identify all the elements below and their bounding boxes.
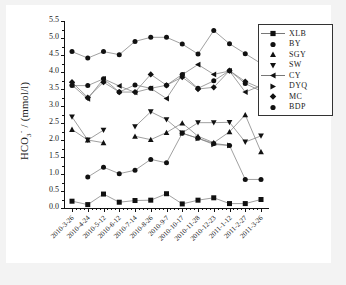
y-tick-label: 3.5 — [49, 83, 59, 92]
data-point — [101, 76, 106, 81]
data-point — [180, 201, 185, 206]
x-tick-mark — [206, 208, 207, 210]
figure-canvas: HCO3- / (mmol/l) 0.00.51.01.52.02.53.03.… — [0, 0, 346, 285]
data-point — [69, 114, 75, 119]
legend-glyph — [268, 103, 278, 112]
x-tick-mark — [115, 208, 116, 210]
series-CY — [69, 62, 263, 102]
data-point — [227, 201, 232, 206]
data-point — [243, 177, 248, 182]
legend-glyph — [268, 82, 278, 91]
x-tick-mark — [210, 208, 211, 210]
x-tick-mark — [178, 208, 179, 210]
y-tick-0.0: 0.0 — [63, 208, 64, 209]
x-tick-mark — [84, 208, 85, 210]
legend-item-sw[interactable]: SW — [261, 60, 329, 71]
data-point — [227, 68, 232, 73]
legend-label: XLB — [285, 29, 306, 38]
data-point — [133, 39, 138, 44]
data-point — [243, 81, 248, 86]
data-point — [133, 82, 138, 87]
series-XLB — [70, 191, 264, 207]
x-tick-mark — [92, 208, 93, 210]
data-point — [242, 112, 248, 117]
legend-item-cy[interactable]: CY — [261, 70, 329, 81]
legend-glyph — [268, 92, 278, 101]
data-point — [132, 133, 138, 138]
data-point — [180, 42, 185, 47]
x-tick-mark — [127, 208, 128, 210]
data-point — [259, 197, 264, 202]
y-tick-label: 4.0 — [49, 66, 59, 75]
data-point — [101, 49, 106, 54]
data-point — [85, 175, 90, 180]
data-point — [101, 192, 106, 197]
data-point — [117, 171, 122, 176]
x-tick-mark — [135, 208, 136, 212]
x-tick-mark — [226, 208, 227, 210]
legend-box: XLBBYSGYSWCYDYQMCBDP — [258, 24, 333, 116]
data-point — [133, 168, 138, 173]
legend-item-sgy[interactable]: SGY — [261, 49, 329, 60]
x-tick-mark — [72, 208, 73, 212]
legend-item-xlb[interactable]: XLB — [261, 28, 329, 39]
x-tick-mark — [182, 208, 183, 212]
data-point — [85, 56, 90, 61]
x-tick-mark — [253, 208, 254, 210]
y-tick-label: 3.0 — [49, 100, 59, 109]
x-tick-mark — [104, 208, 105, 212]
data-point — [242, 140, 248, 145]
data-point — [117, 200, 122, 205]
x-tick-mark — [233, 208, 234, 210]
legend-item-mc[interactable]: MC — [261, 91, 329, 102]
series-SW — [69, 109, 264, 145]
series-MC-low — [70, 68, 264, 94]
data-point — [101, 165, 106, 170]
data-point — [211, 28, 216, 33]
y-tick-label: 5.5 — [49, 15, 59, 24]
legend-item-dyq[interactable]: DYQ — [261, 81, 329, 92]
legend-item-by[interactable]: BY — [261, 39, 329, 50]
data-point — [179, 120, 185, 125]
data-point — [132, 124, 138, 129]
data-point — [196, 198, 201, 203]
legend-marker-circle-icon — [261, 39, 285, 49]
data-point — [243, 201, 248, 206]
x-tick-mark — [261, 208, 262, 212]
x-tick-mark — [100, 208, 101, 210]
data-point — [148, 35, 153, 40]
legend-glyph — [268, 61, 278, 70]
data-point — [211, 78, 216, 83]
legend-marker-diamond-icon — [261, 91, 285, 101]
y-tick-label: 4.5 — [49, 49, 59, 58]
plot-area: 0.00.51.01.52.02.53.03.54.04.55.05.5 201… — [64, 21, 269, 208]
legend-label: SW — [285, 60, 302, 69]
data-point — [242, 89, 247, 95]
x-tick-mark — [155, 208, 156, 210]
legend-marker-circle-icon — [261, 102, 285, 112]
data-point — [85, 83, 90, 88]
data-point — [117, 52, 122, 57]
data-point — [258, 133, 264, 138]
x-tick-mark — [139, 208, 140, 210]
legend-marker-triangle-up-icon — [261, 49, 285, 59]
x-tick-mark — [190, 208, 191, 210]
x-tick-mark — [214, 208, 215, 212]
y-axis-title: HCO3- / (mmol/l) — [17, 61, 33, 181]
legend-marker-square-icon — [261, 28, 285, 38]
x-tick-mark — [186, 208, 187, 210]
x-tick-mark — [167, 208, 168, 212]
x-tick-mark — [159, 208, 160, 210]
x-tick-mark — [174, 208, 175, 210]
legend-item-bdp[interactable]: BDP — [261, 102, 329, 113]
x-tick-mark — [76, 208, 77, 210]
data-point — [164, 35, 169, 40]
y-tick-label: 2.0 — [49, 134, 59, 143]
data-point — [196, 51, 201, 56]
legend-label: DYQ — [285, 81, 308, 90]
data-point — [243, 51, 248, 56]
series-BDP — [70, 28, 264, 66]
x-tick-mark — [218, 208, 219, 210]
y-tick-label: 2.5 — [49, 117, 59, 126]
legend-glyph — [268, 40, 278, 49]
